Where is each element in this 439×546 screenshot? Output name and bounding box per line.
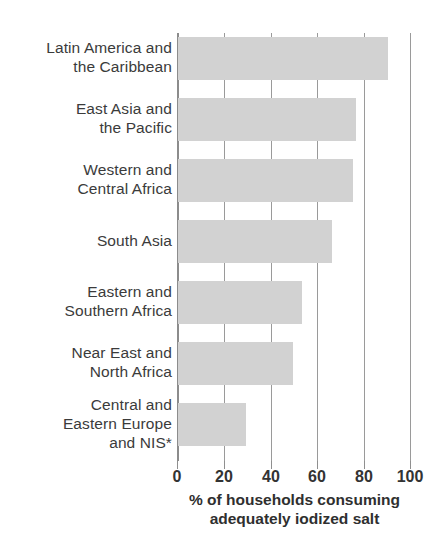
category-axis-labels: Latin America and the Caribbean East Asi… bbox=[0, 0, 172, 546]
category-label-south-asia: South Asia bbox=[0, 231, 172, 250]
tick-label-40: 40 bbox=[251, 468, 291, 486]
bar-western-central-africa bbox=[178, 159, 353, 202]
category-label-central-eastern-europe-nis: Central and Eastern Europe and NIS* bbox=[0, 395, 172, 452]
x-axis-title: % of households consuming adequately iod… bbox=[150, 490, 439, 528]
tick-label-100: 100 bbox=[390, 468, 430, 486]
gridline-80 bbox=[364, 33, 365, 461]
bar-eastern-southern-africa bbox=[178, 281, 302, 324]
bar-chart: Latin America and the Caribbean East Asi… bbox=[0, 0, 439, 546]
category-label-near-east-north-africa: Near East and North Africa bbox=[0, 343, 172, 381]
tick-label-60: 60 bbox=[297, 468, 337, 486]
category-label-east-asia: East Asia and the Pacific bbox=[0, 99, 172, 137]
category-label-latin-america: Latin America and the Caribbean bbox=[0, 38, 172, 76]
plot-area bbox=[177, 33, 411, 461]
category-label-eastern-southern-africa: Eastern and Southern Africa bbox=[0, 282, 172, 320]
tick-label-20: 20 bbox=[204, 468, 244, 486]
bar-latin-america bbox=[178, 37, 388, 80]
bar-central-eastern-europe-nis bbox=[178, 403, 246, 446]
tick-label-0: 0 bbox=[157, 468, 197, 486]
category-label-western-central-africa: Western and Central Africa bbox=[0, 160, 172, 198]
tick-label-80: 80 bbox=[344, 468, 384, 486]
bar-south-asia bbox=[178, 220, 332, 263]
gridline-100 bbox=[410, 33, 411, 461]
bar-near-east-north-africa bbox=[178, 342, 293, 385]
bar-east-asia bbox=[178, 98, 356, 141]
